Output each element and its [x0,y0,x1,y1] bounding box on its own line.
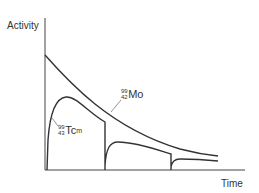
mo-atomic-number: 42 [121,94,128,100]
mo-label: 99 42 Mo [121,88,143,100]
tc-metastable-marker: m [76,127,82,134]
mo-symbol: Mo [128,88,143,100]
tc-atomic-number: 43 [58,130,65,136]
x-axis-label: Time [221,178,243,189]
tc-nuclide-numbers: 99 43 [58,124,65,136]
tc-label: 99 43 Tc m [58,124,82,136]
tc-symbol: Tc [65,124,76,136]
y-axis-label: Activity [7,20,39,31]
mo-curve [45,55,218,156]
mo-nuclide-numbers: 99 42 [121,88,128,100]
mo-leader-line [111,100,121,112]
